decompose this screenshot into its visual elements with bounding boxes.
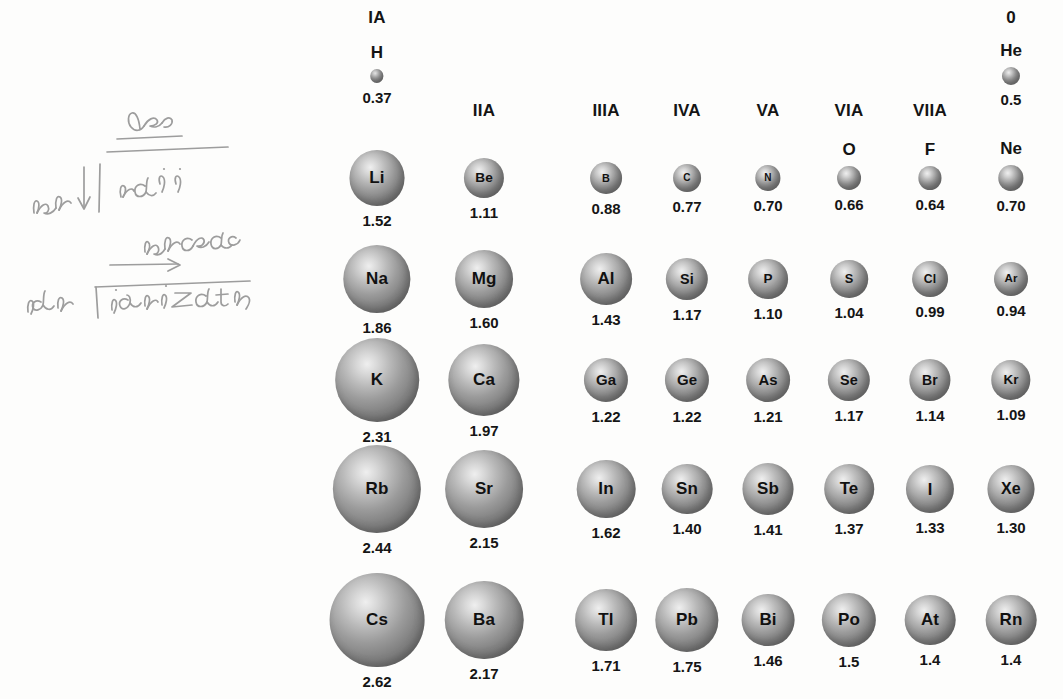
atom-sphere-at[interactable]: At	[905, 595, 956, 646]
element-symbol-po: Po	[838, 611, 860, 628]
element-cell-rn[interactable]: Rn1.4	[951, 0, 1063, 699]
element-symbol-tl: Tl	[598, 611, 613, 628]
sphere-body: Ba	[445, 581, 524, 660]
atomic-radius-value-cs: 2.62	[317, 673, 437, 690]
atom-sphere-rn[interactable]: Rn	[986, 595, 1037, 646]
atomic-radii-chart: IAIIAIIIAIVAVAVIAVIIA0H0.37He0.5Li1.52Be…	[0, 0, 1063, 699]
element-symbol-at: At	[921, 611, 939, 628]
element-symbol-bi: Bi	[759, 611, 776, 628]
sphere-body: Cs	[330, 573, 425, 668]
sphere-body: At	[905, 595, 956, 646]
element-symbol-rn: Rn	[1000, 611, 1023, 628]
element-symbol-cs: Cs	[366, 611, 388, 628]
atom-sphere-ba[interactable]: Ba	[445, 581, 524, 660]
atom-sphere-bi[interactable]: Bi	[742, 594, 795, 647]
sphere-body: Po	[822, 593, 876, 647]
element-symbol-ba: Ba	[473, 611, 495, 628]
atom-sphere-cs[interactable]: Cs	[330, 573, 425, 668]
element-cell-ba[interactable]: Ba2.17	[424, 0, 544, 699]
element-symbol-pb: Pb	[676, 611, 698, 628]
atomic-radius-value-rn: 1.4	[951, 651, 1063, 668]
sphere-body: Bi	[742, 594, 795, 647]
element-cell-cs[interactable]: Cs2.62	[317, 0, 437, 699]
sphere-body: Rn	[986, 595, 1037, 646]
atom-sphere-po[interactable]: Po	[822, 593, 876, 647]
atomic-radius-value-ba: 2.17	[424, 665, 544, 682]
